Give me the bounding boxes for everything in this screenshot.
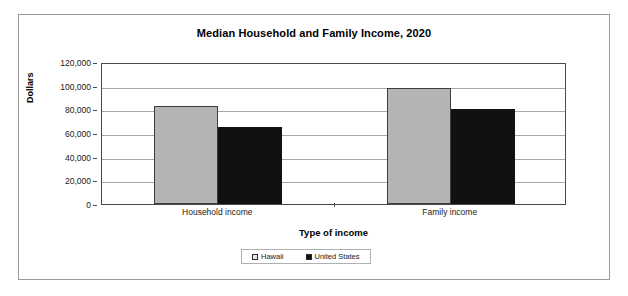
x-axis-title: Type of income xyxy=(101,227,566,238)
chart-legend: HawaiiUnited States xyxy=(241,249,371,264)
y-axis-tick-label: 40,000 xyxy=(65,153,91,163)
y-axis-tick-label: 0 xyxy=(86,200,91,210)
x-axis-tick-mark xyxy=(334,203,335,207)
y-axis-tick-mark xyxy=(93,158,97,159)
y-axis-tick-label: 100,000 xyxy=(60,82,91,92)
plot-area xyxy=(101,63,566,205)
y-axis-tick-mark xyxy=(93,87,97,88)
y-axis-tick-label: 20,000 xyxy=(65,176,91,186)
x-axis-tick-labels: Household incomeFamily income xyxy=(101,207,566,223)
legend-item-hawaii[interactable]: Hawaii xyxy=(252,252,284,261)
legend-label: Hawaii xyxy=(261,252,284,261)
y-axis-tick-mark xyxy=(93,205,97,206)
chart-title: Median Household and Family Income, 2020 xyxy=(19,27,609,39)
legend-swatch-icon xyxy=(306,254,312,260)
chart-frame: Median Household and Family Income, 2020… xyxy=(18,14,610,280)
x-axis-category-label: Family income xyxy=(422,207,477,217)
x-axis-category-label: Household income xyxy=(182,207,252,217)
legend-label: United States xyxy=(315,252,360,261)
y-axis-tick-label: 120,000 xyxy=(60,58,91,68)
y-axis-tick-labels: 020,00040,00060,00080,000100,000120,000 xyxy=(19,63,97,205)
legend-item-united-states[interactable]: United States xyxy=(306,252,360,261)
y-axis-tick-mark xyxy=(93,181,97,182)
bar-united-states-household-income xyxy=(218,127,282,204)
y-axis-tick-mark xyxy=(93,134,97,135)
y-axis-tick-mark xyxy=(93,110,97,111)
y-axis-tick-label: 80,000 xyxy=(65,105,91,115)
bar-hawaii-household-income xyxy=(154,106,218,204)
y-axis-tick-mark xyxy=(93,63,97,64)
bar-united-states-family-income xyxy=(451,109,515,204)
legend-swatch-icon xyxy=(252,254,258,260)
gridline xyxy=(102,88,565,89)
bar-hawaii-family-income xyxy=(387,88,451,204)
y-axis-tick-label: 60,000 xyxy=(65,129,91,139)
